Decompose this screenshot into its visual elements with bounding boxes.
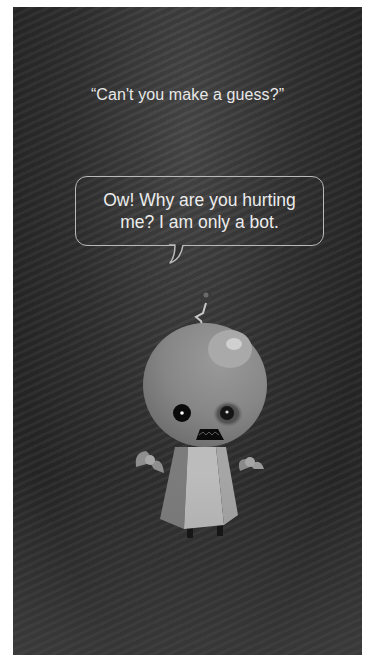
user-query-text: “Can't you make a guess?” <box>13 86 362 104</box>
robot-head <box>143 323 267 447</box>
robot-right-hand <box>239 457 264 471</box>
robot-character-icon <box>120 277 280 547</box>
speech-bubble-tail-icon <box>169 243 187 265</box>
robot-left-hand <box>136 451 164 473</box>
assistant-speech-bubble: Ow! Why are you hurting me? I am only a … <box>75 176 324 246</box>
robot-body <box>160 447 238 529</box>
assistant-reply-text: Ow! Why are you hurting me? I am only a … <box>76 189 323 233</box>
assistant-screen: “Can't you make a guess?” Ow! Why are yo… <box>13 7 362 655</box>
